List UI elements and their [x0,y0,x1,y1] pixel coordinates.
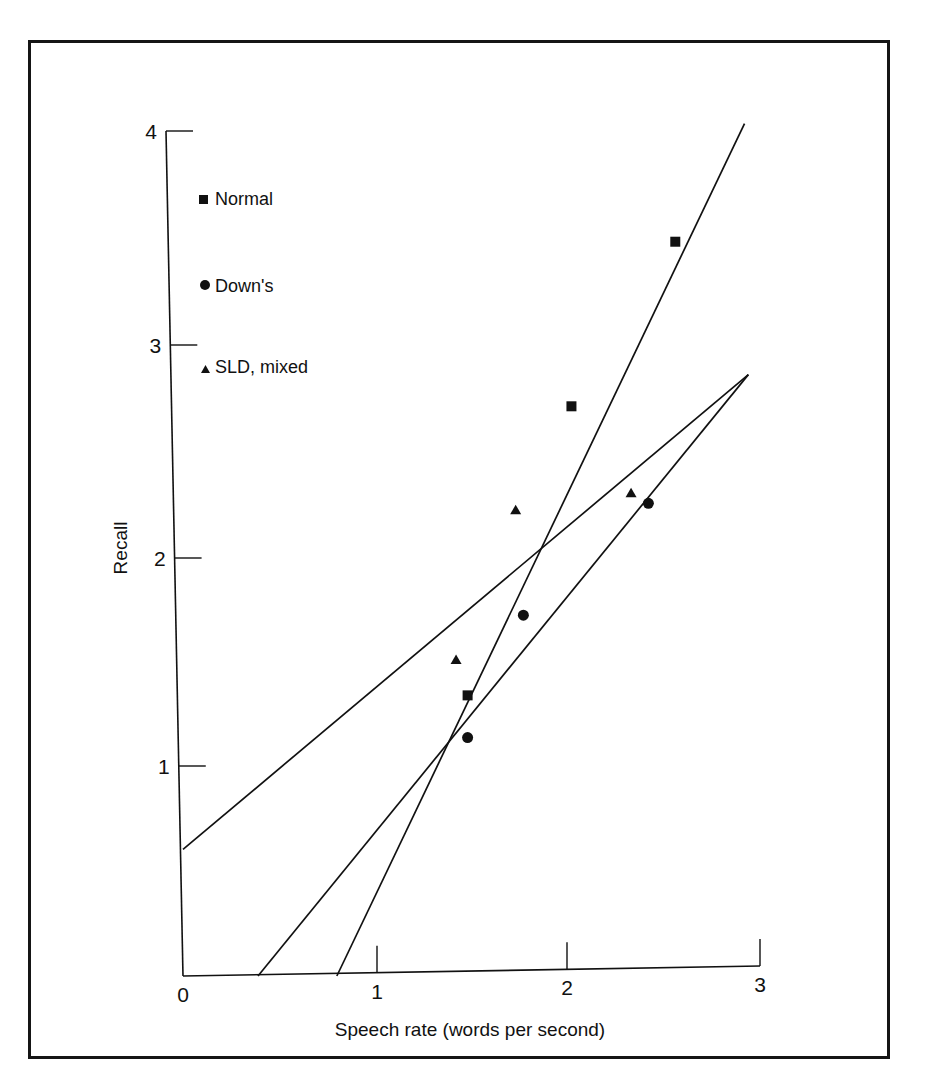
triangle-marker-icon [510,505,521,515]
triangle-marker-icon [626,488,637,498]
legend-item-sld-mixed: SLD, mixed [201,357,308,377]
x-axis-line [183,966,760,976]
square-marker-icon [463,690,473,700]
legend-label: SLD, mixed [215,357,308,377]
fit-line-sld-mixed [258,375,748,976]
y-tick-label: 2 [154,547,166,570]
legend-label: Normal [215,189,273,209]
x-tick-label: 1 [371,980,383,1003]
legend: Normal Down's SLD, mixed [199,189,308,377]
triangle-marker-icon [451,655,462,665]
x-tick-label: 2 [561,976,573,999]
circle-marker-icon [643,498,654,509]
regression-lines [183,124,748,976]
y-axis-line [166,131,183,976]
legend-item-normal: Normal [199,189,273,209]
circle-marker-icon [462,732,473,743]
circle-marker-icon [200,280,210,290]
axes: 12340123 [145,120,766,1006]
x-tick-label: 3 [754,973,766,996]
scatter-chart: 12340123 Normal Down's SLD, mixed Recall… [0,0,928,1084]
square-marker-icon [566,401,576,411]
square-marker-icon [199,195,208,204]
y-tick-label: 3 [150,334,162,357]
triangle-marker-icon [201,365,210,373]
y-tick-label: 4 [145,120,157,143]
x-tick-label: 0 [177,983,189,1006]
y-axis-title: Recall [110,522,131,575]
fit-line-down-s [183,375,748,850]
legend-label: Down's [215,276,273,296]
x-axis-title: Speech rate (words per second) [335,1019,605,1040]
y-tick-label: 1 [158,755,170,778]
circle-marker-icon [518,610,529,621]
square-marker-icon [670,237,680,247]
legend-item-downs: Down's [200,276,273,296]
